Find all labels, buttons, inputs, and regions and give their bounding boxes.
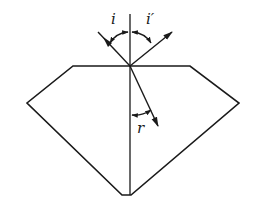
label-i-prime: i′ [146, 10, 155, 28]
reflected-ray [130, 32, 172, 66]
label-i: i [111, 10, 116, 28]
gem-outline [27, 66, 239, 195]
label-r: r [137, 119, 145, 137]
reflection-angle-arc [132, 32, 151, 43]
diagram-canvas: i i′ r [0, 0, 266, 212]
optics-diagram: i i′ r [0, 0, 266, 212]
refraction-angle-arc [132, 110, 151, 115]
incidence-angle-arc [110, 32, 128, 43]
refracted-ray [130, 66, 158, 126]
